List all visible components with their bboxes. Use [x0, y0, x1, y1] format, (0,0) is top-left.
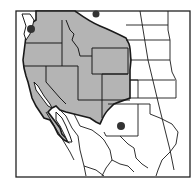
map-svg [0, 0, 194, 188]
range-map [0, 0, 194, 188]
locality-dot-northern-border [93, 11, 100, 18]
locality-dot-west-texas [117, 122, 125, 130]
locality-dot-puget-sound [27, 25, 35, 33]
